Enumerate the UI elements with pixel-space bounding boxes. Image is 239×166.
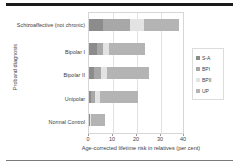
- x-tick-label-0: 0: [81, 136, 95, 142]
- x-axis-title: Age-corrected lifetime risk in relatives…: [66, 145, 216, 151]
- legend-swatch-sa-icon: [196, 56, 200, 60]
- gridline-30: [161, 13, 162, 133]
- bar-segment-s-a[interactable]: [89, 19, 103, 31]
- legend-item-sa[interactable]: S-A: [196, 52, 221, 63]
- legend-label-bpii: BPII: [202, 77, 211, 83]
- y-category-label-normal-control: Normal Control: [15, 119, 85, 126]
- bar-segment-s-a[interactable]: [89, 43, 97, 55]
- x-tick-label-40: 40: [176, 136, 190, 142]
- plot-area: [88, 12, 184, 134]
- bar-unipolar[interactable]: [89, 91, 138, 103]
- top-rule: [6, 3, 233, 6]
- x-tick-label-20: 20: [129, 136, 143, 142]
- bar-bipolar-ii[interactable]: [89, 67, 149, 79]
- bar-normal-control[interactable]: [89, 114, 105, 126]
- legend-label-up: UP: [202, 88, 209, 94]
- y-category-label-unipolar: Unipolar: [15, 96, 85, 103]
- bar-segment-up[interactable]: [100, 91, 138, 103]
- bar-schizoaffective[interactable]: [89, 19, 179, 31]
- legend-item-up[interactable]: UP: [196, 85, 221, 96]
- x-tick-label-10: 10: [105, 136, 119, 142]
- chart-area: Proband diagnosis Schizoaffective (not c…: [0, 8, 239, 158]
- legend-swatch-bpi-icon: [196, 67, 200, 71]
- y-category-label-bipolar-i: Bipolar I: [15, 49, 85, 56]
- legend: S-A BPI BPII UP: [192, 48, 224, 100]
- legend-item-bpi[interactable]: BPI: [196, 63, 221, 74]
- bar-segment-up[interactable]: [109, 43, 145, 55]
- legend-swatch-bpii-icon: [196, 78, 200, 82]
- legend-swatch-up-icon: [196, 89, 200, 93]
- bar-segment-bpi[interactable]: [94, 67, 101, 79]
- legend-label-sa: S-A: [202, 55, 210, 61]
- y-category-label-bipolar-ii: Bipolar II: [15, 72, 85, 79]
- bar-segment-bpii[interactable]: [130, 19, 144, 31]
- legend-item-bpii[interactable]: BPII: [196, 74, 221, 85]
- bottom-rule: [6, 160, 233, 161]
- figure: Proband diagnosis Schizoaffective (not c…: [0, 0, 239, 166]
- bar-segment-up[interactable]: [144, 19, 179, 31]
- bar-bipolar-i[interactable]: [89, 43, 145, 55]
- legend-label-bpi: BPI: [202, 66, 210, 72]
- bar-segment-up[interactable]: [107, 67, 149, 79]
- bar-segment-up[interactable]: [91, 114, 105, 126]
- x-tick-label-30: 30: [153, 136, 167, 142]
- y-category-label-schizoaffective: Schizoaffective (not chronic): [15, 22, 85, 29]
- bar-segment-bpi[interactable]: [103, 19, 129, 31]
